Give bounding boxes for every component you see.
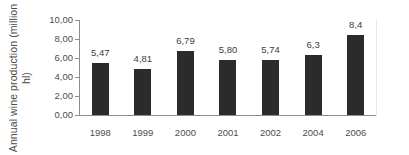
chart-figure: Annual wine production (million hl) 0,00… <box>0 0 409 155</box>
x-axis-tick-label: 1999 <box>132 128 153 138</box>
y-axis-tick-label: 8,00 <box>55 34 74 44</box>
bar-value-label: 5,80 <box>219 45 238 55</box>
x-axis-tick-label: 2006 <box>345 128 366 138</box>
x-axis-tick-label: 2002 <box>260 128 281 138</box>
bar-value-label: 5,74 <box>261 45 280 55</box>
bar[interactable]: 8,42006 <box>347 35 364 115</box>
bar-value-label: 6,79 <box>176 36 195 46</box>
y-axis-tick-label: 0,00 <box>55 110 74 120</box>
y-axis-title-line-2: hl) <box>20 0 33 155</box>
bar[interactable]: 5,802001 <box>219 60 236 115</box>
bar-value-label: 6,3 <box>307 40 320 50</box>
x-axis-tick-label: 2000 <box>175 128 196 138</box>
y-axis-title: Annual wine production (million hl) <box>0 0 40 155</box>
bar-value-label: 5,47 <box>91 48 110 58</box>
bar-value-label: 8,4 <box>349 20 362 30</box>
bar[interactable]: 5,471998 <box>92 63 109 115</box>
y-axis-tick-label: 4,00 <box>55 72 74 82</box>
x-axis-tick-label: 2001 <box>217 128 238 138</box>
y-axis-title-line-1: Annual wine production (million <box>7 0 20 155</box>
y-axis-tick-label: 2,00 <box>55 91 74 101</box>
bar-group: 5,471998 <box>79 20 122 116</box>
bar[interactable]: 6,32004 <box>305 55 322 115</box>
bar[interactable]: 6,792000 <box>177 51 194 116</box>
bar-group: 5,802001 <box>207 20 250 116</box>
bar-group: 8,42006 <box>334 20 377 116</box>
bar-group: 6,792000 <box>164 20 207 116</box>
bar-group: 4,811999 <box>122 20 165 116</box>
plot-area: 0,002,004,006,008,0010,00 5,4719984,8119… <box>79 20 377 116</box>
bar-value-label: 4,81 <box>134 54 153 64</box>
bar[interactable]: 5,742002 <box>262 60 279 115</box>
x-axis-tick-label: 2004 <box>303 128 324 138</box>
y-axis-tick-label: 10,00 <box>49 15 73 25</box>
bar[interactable]: 4,811999 <box>134 69 151 115</box>
bar-group: 5,742002 <box>249 20 292 116</box>
x-axis-tick-label: 1998 <box>90 128 111 138</box>
y-axis-tick-label: 6,00 <box>55 53 74 63</box>
bar-group: 6,32004 <box>292 20 335 116</box>
